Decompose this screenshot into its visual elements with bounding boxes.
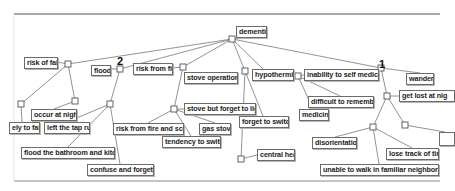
- edge-line: [405, 125, 445, 132]
- junction-node[interactable]: [65, 61, 71, 67]
- edge-line: [183, 39, 232, 67]
- node-partial-box[interactable]: [439, 132, 455, 146]
- node-risk-fire-scald[interactable]: risk from fire and scald: [113, 123, 184, 135]
- junction-node[interactable]: [180, 64, 186, 70]
- node-gas-stove[interactable]: gas stove: [199, 123, 231, 135]
- node-dementia[interactable]: dementia: [236, 26, 267, 38]
- node-unable-walk[interactable]: unable to walk in familiar neighborhood: [320, 164, 439, 176]
- edge-line: [373, 127, 412, 148]
- edge-line: [232, 39, 263, 69]
- edge-line: [373, 96, 387, 127]
- junction-node[interactable]: [402, 122, 408, 128]
- node-likely-to-fail[interactable]: ely to fail: [9, 122, 40, 134]
- junction-node[interactable]: [18, 101, 24, 107]
- edge-line: [373, 127, 379, 164]
- node-confuse-forgetful[interactable]: confuse and forgetful: [87, 164, 154, 176]
- edge-line: [110, 69, 120, 104]
- junction-node[interactable]: [107, 101, 113, 107]
- node-inability-self-medicate[interactable]: inability to self medicate: [304, 69, 379, 81]
- priority-marker: 2: [117, 56, 123, 67]
- edge-line: [68, 39, 232, 64]
- edge-line: [21, 64, 68, 104]
- junction-node[interactable]: [295, 73, 301, 79]
- junction-node[interactable]: [242, 68, 248, 74]
- edge-line: [232, 39, 245, 71]
- node-disorientation[interactable]: disorientation: [312, 137, 357, 149]
- node-wander[interactable]: wander: [406, 73, 434, 85]
- node-risk-of-fall[interactable]: risk of fall: [24, 57, 58, 69]
- node-central-heat[interactable]: central heat: [257, 149, 295, 161]
- priority-marker: 1: [379, 59, 385, 70]
- node-stove-forget-light[interactable]: stove but forget to light: [184, 103, 256, 115]
- node-medicine[interactable]: medicine: [299, 109, 329, 121]
- edge-line: [174, 67, 183, 109]
- edge-line: [232, 39, 381, 68]
- junction-node[interactable]: [171, 106, 177, 112]
- edge-line: [335, 127, 373, 137]
- node-forget-switch[interactable]: forget to switch: [239, 116, 289, 128]
- node-left-tap-run[interactable]: left the tap run: [44, 122, 90, 134]
- node-tendency-switch[interactable]: tendency to switch: [162, 136, 221, 148]
- junction-node[interactable]: [384, 93, 390, 99]
- node-difficult-remember[interactable]: difficult to remember: [308, 96, 374, 108]
- node-flood-bathroom[interactable]: flood the bathroom and kitchen: [21, 147, 115, 159]
- junction-node[interactable]: [370, 124, 376, 130]
- node-get-lost[interactable]: get lost at nig: [399, 90, 455, 102]
- edge-line: [148, 109, 174, 123]
- junction-node[interactable]: [229, 36, 235, 42]
- node-flood[interactable]: flood: [91, 65, 111, 76]
- node-occur-at-night[interactable]: occur at night: [31, 109, 77, 121]
- junction-node[interactable]: [72, 98, 78, 104]
- edge-line: [68, 64, 75, 101]
- node-stove-operation[interactable]: stove operation: [184, 72, 238, 84]
- edge-line: [381, 68, 387, 96]
- node-lose-track-time[interactable]: lose track of time: [386, 148, 439, 160]
- node-hypothermia[interactable]: hypothermia: [252, 69, 294, 81]
- edge-line: [241, 71, 245, 159]
- node-risk-from-fire[interactable]: risk from fire: [133, 63, 173, 75]
- junction-node[interactable]: [238, 156, 244, 162]
